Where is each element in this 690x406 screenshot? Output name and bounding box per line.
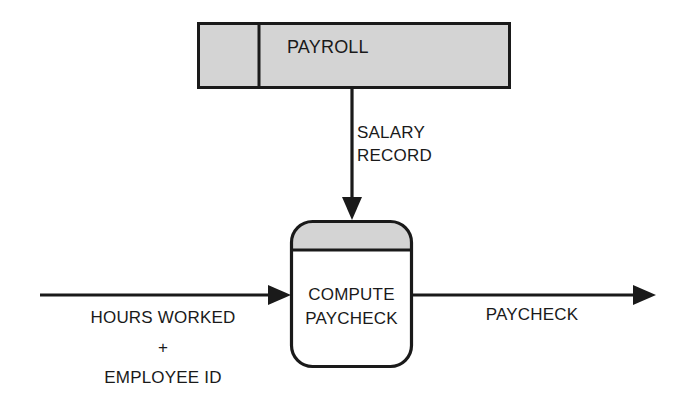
flow-arrow-hours-worked[interactable] bbox=[40, 285, 291, 305]
flow-label-paycheck: PAYCHECK bbox=[432, 303, 632, 326]
flow-label-salary-record-line2: RECORD bbox=[357, 146, 432, 165]
flow-arrow-paycheck-head bbox=[633, 285, 656, 305]
flow-arrow-paycheck[interactable] bbox=[412, 285, 656, 305]
flow-label-salary-record-line1: SALARY bbox=[357, 123, 425, 142]
process-label-line1: COMPUTE bbox=[308, 285, 394, 304]
flow-arrow-salary-record-head bbox=[342, 197, 362, 220]
process-header-band bbox=[291, 221, 412, 250]
flow-arrow-hours-worked-head bbox=[268, 285, 291, 305]
flow-label-input-plus: + bbox=[158, 338, 168, 357]
diagram-canvas: PAYROLL SALARYRECORD COMPUTEPAYCHECK HOU… bbox=[0, 0, 690, 406]
flow-label-input-line1: HOURS WORKED bbox=[90, 308, 235, 327]
flow-label-input-line3: EMPLOYEE ID bbox=[104, 368, 221, 387]
flow-label-hours-worked: HOURS WORKED+EMPLOYEE ID bbox=[43, 303, 283, 393]
flow-label-salary-record: SALARYRECORD bbox=[357, 121, 432, 167]
data-store-label: PAYROLL bbox=[287, 36, 369, 59]
process-label-line2: PAYCHECK bbox=[305, 309, 398, 328]
process-label: COMPUTEPAYCHECK bbox=[290, 283, 413, 331]
